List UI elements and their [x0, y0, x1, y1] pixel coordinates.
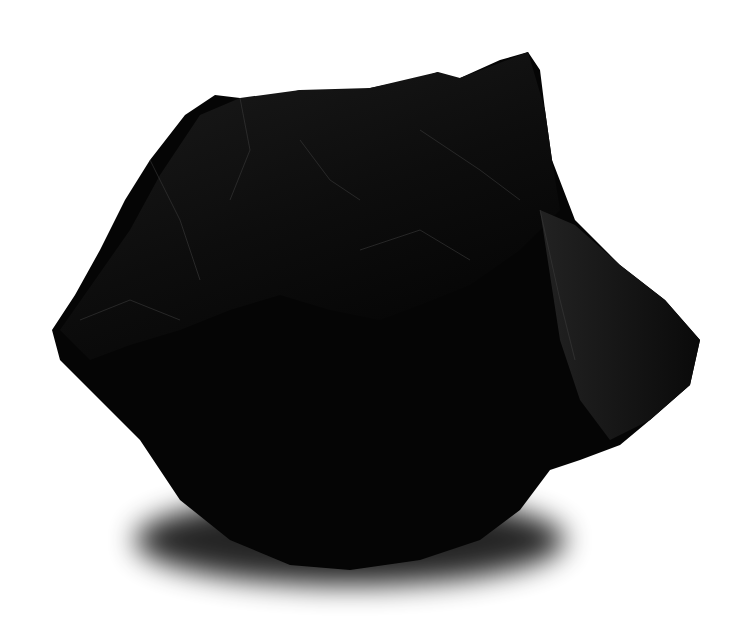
photo-scene [0, 0, 748, 637]
